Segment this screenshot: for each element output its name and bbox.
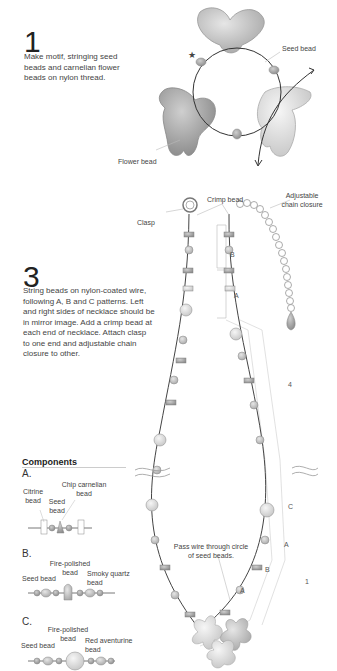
flower-bead-label: Flower bead: [118, 158, 157, 167]
step-1-instructions: Make motif, stringing seed beads and car…: [24, 52, 124, 84]
pass-wire-label: Pass wire through circle of seed beads.: [170, 543, 252, 560]
chip-carnelian-label: Chip carnelian bead: [58, 481, 110, 498]
crimp-bead-label: Crimp bead: [207, 196, 243, 205]
citrine-bead-label: Citrine bead: [20, 488, 46, 505]
marker-c: C: [288, 503, 293, 510]
component-b-letter: B.: [22, 548, 31, 559]
marker-a: A: [234, 292, 239, 299]
red-aventurine-label: Red aventurine bead: [85, 637, 135, 654]
motif-diagram: [156, 8, 314, 166]
marker-b: B: [230, 251, 235, 258]
fire-polished-c-label: Fire-polished bead: [46, 626, 90, 643]
seed-bead-label: Seed bead: [282, 45, 316, 54]
component-c-letter: C.: [22, 616, 32, 627]
smoky-quartz-label: Smoky quartz bead: [87, 570, 135, 587]
seed-bead-a-label: Seed bead: [46, 498, 68, 515]
components-title: Components: [22, 457, 126, 468]
fire-polished-b-label: Fire-polished bead: [48, 560, 92, 577]
necklace-diagram: [135, 198, 318, 668]
marker-1: 1: [305, 578, 309, 585]
marker-4: 4: [288, 381, 292, 388]
adjustable-chain-label: Adjustable chain closure: [277, 192, 327, 209]
step-3-instructions: String beads on nylon-coated wire, follo…: [23, 286, 155, 360]
marker-a-2: A: [284, 541, 289, 548]
seed-bead-c-label: Seed bead: [21, 642, 55, 651]
component-a-letter: A.: [22, 468, 31, 479]
star-marker-icon: ★: [188, 51, 196, 60]
marker-a-3: A: [240, 587, 245, 594]
clasp-label: Clasp: [137, 219, 155, 228]
marker-b-2: B: [265, 566, 270, 573]
